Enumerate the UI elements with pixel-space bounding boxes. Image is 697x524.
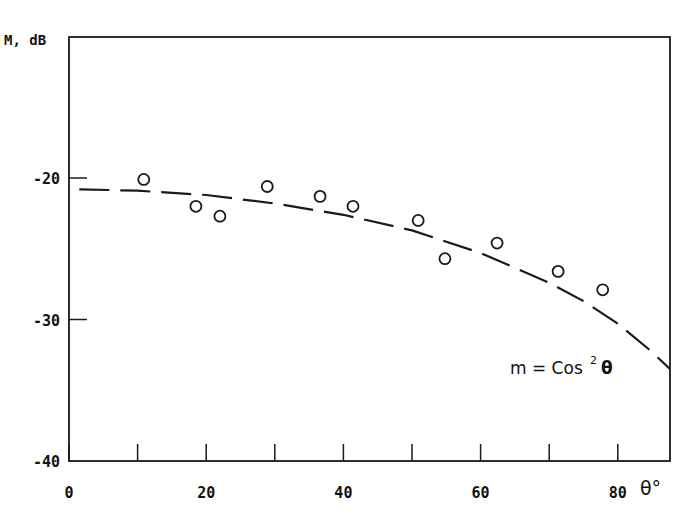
x-tick-label: 80: [609, 484, 627, 502]
x-tick-label: 0: [64, 484, 73, 502]
y-axis-title: M, dB: [4, 32, 46, 48]
x-axis-ticks: 020406080: [64, 444, 626, 502]
plot-frame: [69, 37, 670, 461]
data-point-circle: [413, 215, 424, 226]
data-point-circle: [492, 238, 503, 249]
data-point-circle: [315, 191, 326, 202]
x-tick-label: 40: [334, 484, 352, 502]
annotation-text: m = Cos: [510, 358, 583, 378]
y-tick-label: -30: [33, 312, 60, 330]
y-axis-ticks: -20-30-40: [33, 170, 87, 471]
y-tick-label: -20: [33, 170, 60, 188]
data-point-circle: [138, 174, 149, 185]
data-point-circle: [553, 266, 564, 277]
y-tick-label: -40: [33, 453, 60, 471]
data-point-circle: [262, 181, 273, 192]
x-tick-label: 20: [197, 484, 215, 502]
data-point-circle: [190, 201, 201, 212]
data-point-circle: [597, 284, 608, 295]
data-point-circle: [439, 253, 450, 264]
annotation-theta: θ: [601, 358, 613, 378]
cos2-dashed-line: [79, 189, 670, 369]
x-axis-title: θ°: [640, 477, 661, 499]
chart: 020406080 -20-30-40 M, dB θ° m = Cos 2 θ: [0, 0, 697, 524]
annotation-superscript: 2: [590, 354, 597, 367]
cos2-curve: [79, 189, 670, 369]
data-point-circle: [214, 211, 225, 222]
curve-annotation: m = Cos 2 θ: [510, 354, 613, 378]
x-tick-label: 60: [472, 484, 490, 502]
data-point-circle: [348, 201, 359, 212]
